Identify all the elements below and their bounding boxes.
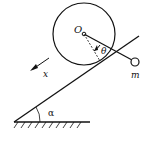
label-x-axis: x bbox=[43, 70, 48, 79]
label-alpha: α bbox=[48, 109, 54, 118]
x-arrowhead bbox=[30, 64, 38, 71]
incline-line bbox=[14, 36, 139, 122]
diagram: O θ m x α bbox=[0, 0, 144, 141]
label-theta: θ bbox=[101, 47, 106, 56]
mass-circle bbox=[131, 58, 139, 66]
alpha-arc bbox=[36, 107, 40, 122]
label-mass: m bbox=[131, 71, 140, 80]
ground-hatch bbox=[14, 122, 81, 128]
theta-arrowhead bbox=[94, 45, 98, 51]
diagram-canvas bbox=[0, 0, 144, 141]
label-origin: O bbox=[74, 25, 82, 35]
pendulum-rod bbox=[84, 34, 132, 60]
